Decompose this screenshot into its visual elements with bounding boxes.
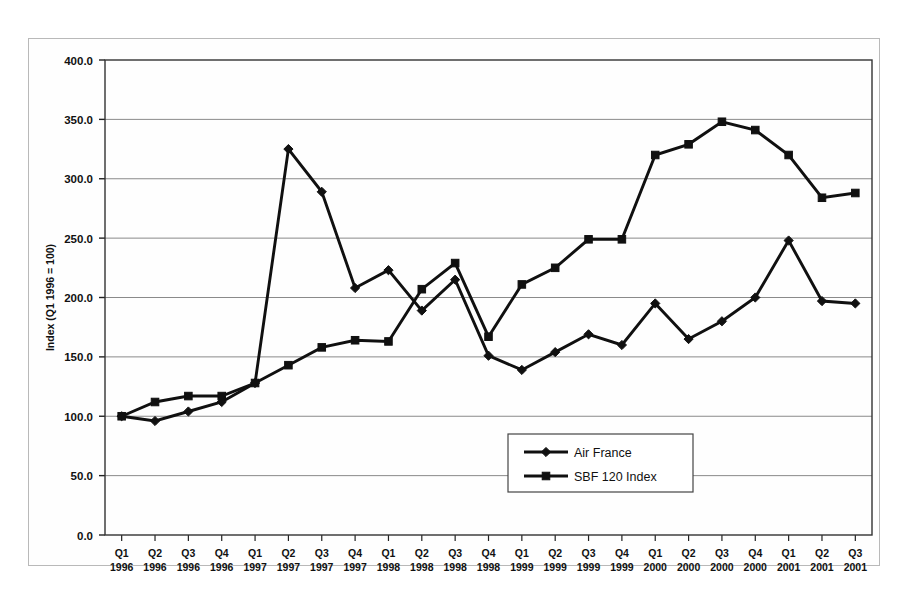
chart-page: 0.050.0100.0150.0200.0250.0300.0350.0400…: [0, 0, 912, 605]
x-tick-label-year: 1997: [277, 561, 301, 573]
data-point-marker-diamond: [184, 407, 193, 416]
x-tick-label-quarter: Q2: [548, 547, 562, 559]
data-point-marker-square: [542, 472, 550, 480]
x-tick-label-quarter: Q3: [582, 547, 596, 559]
data-point-marker-square: [118, 412, 126, 420]
data-point-marker-square: [418, 285, 426, 293]
x-tick-label-quarter: Q4: [481, 547, 495, 559]
data-point-marker-square: [818, 194, 826, 202]
x-tick-label-year: 1998: [410, 561, 434, 573]
x-tick-label-quarter: Q4: [748, 547, 762, 559]
x-tick-label-year: 2001: [844, 561, 868, 573]
x-tick-label-quarter: Q3: [715, 547, 729, 559]
x-tick-label-quarter: Q1: [648, 547, 662, 559]
y-axis-title-group: Index (Q1 1996 = 100): [44, 244, 56, 351]
x-tick-label-quarter: Q1: [782, 547, 796, 559]
y-tick-label: 200.0: [64, 292, 93, 304]
x-tick-label-year: 2000: [710, 561, 734, 573]
series-2: [118, 118, 859, 420]
y-tick-label: 0.0: [77, 530, 93, 542]
x-tick-label-quarter: Q2: [148, 547, 162, 559]
y-tick-label: 250.0: [64, 233, 93, 245]
data-point-marker-square: [752, 126, 760, 134]
x-tick-label-year: 1997: [310, 561, 334, 573]
data-point-marker-square: [451, 259, 459, 267]
legend-label: SBF 120 Index: [574, 470, 657, 484]
x-tick-label-quarter: Q2: [415, 547, 429, 559]
series-1: [117, 144, 860, 425]
data-point-marker-square: [585, 236, 593, 244]
data-point-marker-square: [852, 189, 860, 197]
x-tick-label-year: 1999: [544, 561, 568, 573]
x-tick-label-quarter: Q3: [848, 547, 862, 559]
y-tick-label: 100.0: [64, 411, 93, 423]
x-tick-label-year: 2000: [644, 561, 668, 573]
data-point-marker-diamond: [851, 299, 860, 308]
x-tick-label-year: 1998: [377, 561, 401, 573]
data-point-marker-square: [551, 264, 559, 272]
x-tick-label-quarter: Q1: [115, 547, 129, 559]
x-tick-label-year: 1996: [143, 561, 167, 573]
x-tick-label-quarter: Q4: [215, 547, 229, 559]
data-point-marker-square: [518, 281, 526, 289]
x-tick-label-quarter: Q1: [248, 547, 262, 559]
x-tick-label-year: 1996: [210, 561, 234, 573]
y-axis-ticks-group: 0.050.0100.0150.0200.0250.0300.0350.0400…: [64, 55, 105, 542]
x-tick-label-quarter: Q3: [181, 547, 195, 559]
data-point-marker-square: [318, 344, 326, 352]
data-point-marker-square: [651, 151, 659, 159]
chart-plot-container: 0.050.0100.0150.0200.0250.0300.0350.0400…: [0, 0, 912, 605]
x-tick-label-quarter: Q3: [448, 547, 462, 559]
x-tick-label-year: 1999: [510, 561, 534, 573]
y-tick-label: 50.0: [71, 470, 93, 482]
x-tick-label-quarter: Q2: [281, 547, 295, 559]
x-tick-label-year: 2000: [677, 561, 701, 573]
x-tick-label-quarter: Q4: [615, 547, 629, 559]
x-tick-label-year: 2001: [810, 561, 834, 573]
y-tick-label: 350.0: [64, 114, 93, 126]
series-line: [122, 122, 856, 417]
y-axis-title: Index (Q1 1996 = 100): [44, 244, 56, 351]
x-tick-label-year: 2000: [744, 561, 768, 573]
x-tick-label-quarter: Q4: [348, 547, 362, 559]
data-point-marker-square: [185, 392, 193, 400]
chart-legend: Air FranceSBF 120 Index: [508, 434, 693, 492]
x-tick-label-quarter: Q1: [515, 547, 529, 559]
x-tick-label-year: 1999: [577, 561, 601, 573]
x-tick-label-quarter: Q2: [682, 547, 696, 559]
series-line: [122, 149, 856, 421]
data-point-marker-square: [685, 141, 693, 149]
y-tick-label: 400.0: [64, 55, 93, 67]
data-point-marker-square: [618, 236, 626, 244]
data-point-marker-diamond: [484, 351, 493, 360]
x-tick-label-year: 1998: [477, 561, 501, 573]
y-tick-label: 150.0: [64, 351, 93, 363]
legend-label: Air France: [574, 446, 632, 460]
x-tick-label-year: 1998: [443, 561, 467, 573]
data-point-marker-square: [151, 398, 159, 406]
x-axis-ticks-group: Q11996Q21996Q31996Q41996Q11997Q21997Q319…: [110, 535, 867, 573]
data-point-marker-square: [718, 118, 726, 126]
x-tick-label-quarter: Q3: [315, 547, 329, 559]
x-tick-label-year: 1996: [110, 561, 134, 573]
data-series-group: [117, 118, 860, 426]
data-point-marker-square: [251, 379, 259, 387]
data-point-marker-square: [785, 151, 793, 159]
x-tick-label-year: 1997: [243, 561, 267, 573]
x-tick-label-year: 1997: [343, 561, 367, 573]
data-point-marker-square: [285, 361, 293, 369]
data-point-marker-square: [218, 392, 226, 400]
x-tick-label-year: 1996: [177, 561, 201, 573]
y-tick-label: 300.0: [64, 173, 93, 185]
x-tick-label-year: 1999: [610, 561, 634, 573]
data-point-marker-square: [485, 333, 493, 341]
data-point-marker-square: [385, 338, 393, 346]
data-point-marker-diamond: [150, 416, 159, 425]
x-tick-label-quarter: Q2: [815, 547, 829, 559]
line-chart: 0.050.0100.0150.0200.0250.0300.0350.0400…: [0, 0, 912, 605]
x-tick-label-year: 2001: [777, 561, 801, 573]
x-tick-label-quarter: Q1: [381, 547, 395, 559]
data-point-marker-square: [351, 336, 359, 344]
